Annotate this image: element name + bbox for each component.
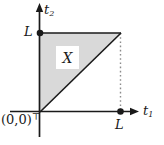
tick-dot-t2-L: [37, 30, 44, 37]
axis-label-t2-subscript: 2: [49, 9, 54, 18]
origin-label: (0,0)⊤: [1, 112, 41, 126]
origin-label-text: (0,0): [1, 112, 32, 127]
axis-label-t1-subscript: 1: [148, 110, 153, 119]
tick-label-t1-L: L: [115, 118, 124, 131]
axis-t2-arrowhead: [36, 3, 43, 12]
tick-label-t2-L: L: [24, 25, 33, 38]
math-figure-triangular-region: t2 t1 L L (0,0)⊤ X: [0, 0, 164, 145]
axis-t1-arrowhead: [130, 108, 139, 115]
axis-label-t2: t2: [44, 3, 54, 18]
axis-label-t1: t1: [143, 104, 153, 119]
tick-dot-t1-L: [117, 108, 124, 115]
origin-label-transpose: ⊤: [32, 111, 41, 122]
region-label-x: X: [56, 46, 79, 69]
